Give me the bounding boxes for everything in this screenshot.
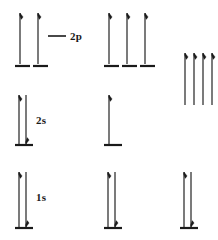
orbital-lines-group bbox=[15, 66, 198, 228]
electron-arrow-1s-col1-1 bbox=[26, 172, 30, 227]
electron-arrow-2s-col1-0 bbox=[19, 95, 23, 144]
electron-arrow-2s-col2-0 bbox=[109, 95, 113, 144]
electron-arrow-2p-col2-2 bbox=[145, 13, 149, 64]
electron-arrow-1s-col1-0 bbox=[19, 172, 23, 227]
electron-arrow-1s-col3-0 bbox=[184, 172, 188, 227]
level-label-1s: 1s bbox=[36, 191, 46, 203]
electron-arrow-2p-col3-0 bbox=[185, 53, 189, 105]
electron-arrows-group bbox=[19, 13, 216, 227]
orbital-diagram bbox=[0, 0, 218, 240]
level-label-2s: 2s bbox=[36, 114, 46, 126]
electron-arrow-2s-col1-1 bbox=[26, 95, 30, 144]
electron-arrow-2p-col1-1 bbox=[38, 13, 42, 64]
electron-arrow-2p-col2-1 bbox=[127, 13, 131, 64]
electron-arrow-1s-col2-0 bbox=[108, 172, 112, 227]
electron-arrow-2p-col3-2 bbox=[203, 53, 207, 105]
electron-arrow-2p-col2-0 bbox=[109, 13, 113, 64]
electron-arrow-2p-col1-0 bbox=[20, 13, 24, 64]
electron-arrow-1s-col2-1 bbox=[115, 172, 119, 227]
electron-arrow-2p-col3-3 bbox=[212, 53, 216, 105]
electron-arrow-1s-col3-1 bbox=[191, 172, 195, 227]
electron-arrow-2p-col3-1 bbox=[194, 53, 198, 105]
level-label-2p: 2p bbox=[70, 30, 82, 42]
